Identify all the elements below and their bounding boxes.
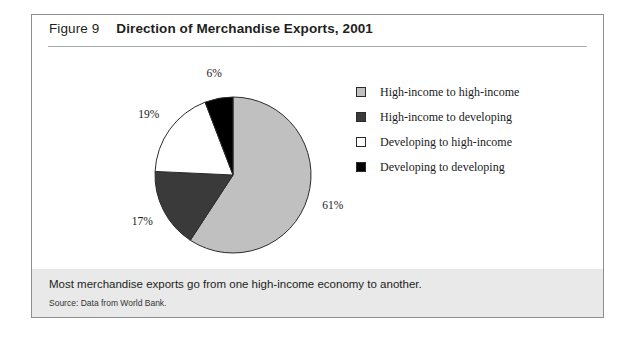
pie-slice-value-label: 19% bbox=[138, 108, 160, 120]
legend-swatch-icon bbox=[356, 137, 366, 147]
figure-frame: Figure 9Direction of Merchandise Exports… bbox=[31, 14, 604, 318]
figure-footer: Most merchandise exports go from one hig… bbox=[32, 269, 603, 317]
pie-chart: 61%17%19%6% bbox=[32, 47, 372, 268]
figure-header: Figure 9Direction of Merchandise Exports… bbox=[32, 15, 603, 46]
figure-caption: Most merchandise exports go from one hig… bbox=[49, 278, 422, 290]
legend-item-high-to-high: High-income to high-income bbox=[356, 85, 586, 101]
legend-swatch-icon bbox=[356, 162, 366, 172]
figure-source: Source: Data from World Bank. bbox=[49, 298, 166, 308]
legend-swatch-icon bbox=[356, 112, 366, 122]
page-title: Figure 9Direction of Merchandise Exports… bbox=[49, 21, 373, 36]
legend-label: High-income to developing bbox=[380, 110, 586, 124]
legend-label: High-income to high-income bbox=[380, 85, 586, 99]
legend-item-developing-to-developing: Developing to developing bbox=[356, 160, 586, 176]
figure-title-text: Direction of Merchandise Exports, 2001 bbox=[116, 21, 373, 36]
legend-swatch-icon bbox=[356, 87, 366, 97]
pie-chart-svg: 61%17%19%6% bbox=[32, 47, 372, 268]
chart-legend: High-income to high-income High-income t… bbox=[356, 85, 586, 185]
legend-label: Developing to high-income bbox=[380, 135, 586, 149]
legend-item-high-to-developing: High-income to developing bbox=[356, 110, 586, 126]
legend-item-developing-to-high: Developing to high-income bbox=[356, 135, 586, 151]
legend-label: Developing to developing bbox=[380, 160, 586, 174]
pie-slice-value-label: 61% bbox=[322, 199, 344, 211]
figure-number: Figure 9 bbox=[49, 21, 99, 36]
pie-slice-value-label: 6% bbox=[206, 67, 222, 79]
pie-slice-value-label: 17% bbox=[132, 215, 154, 227]
chart-body: 61%17%19%6% High-income to high-income H… bbox=[32, 47, 603, 268]
